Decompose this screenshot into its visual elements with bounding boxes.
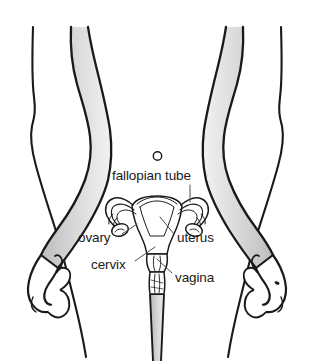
- inner-thigh-gap: [150, 294, 164, 361]
- label-ovary: ovary: [78, 231, 111, 245]
- left-hand: [28, 255, 70, 317]
- cervix-part: [147, 254, 168, 272]
- diagram-canvas: fallopian tube ovary cervix uterus vagin…: [0, 0, 314, 361]
- uterus-body: [132, 196, 182, 254]
- label-fallopian-tube: fallopian tube: [112, 169, 191, 183]
- label-cervix: cervix: [91, 258, 126, 272]
- label-uterus: uterus: [177, 231, 214, 245]
- navel-icon: [153, 152, 161, 160]
- vaginal-canal: [149, 272, 165, 294]
- label-vagina: vagina: [175, 271, 214, 285]
- right-hand: [244, 255, 286, 317]
